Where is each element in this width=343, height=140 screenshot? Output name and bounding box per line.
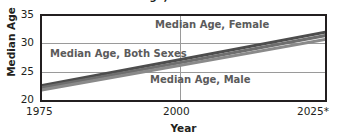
series-label-male: Median Age, Male xyxy=(150,74,251,85)
chart-figure: Median Age, 1975 to 2025 Median Age 35 3… xyxy=(0,0,343,140)
x-tick-label-1975: 1975 xyxy=(26,106,53,117)
y-tick-label-25: 25 xyxy=(0,66,34,76)
series-label-female: Median Age, Female xyxy=(155,19,269,30)
y-tick-label-35: 35 xyxy=(0,9,34,19)
x-tick-label-2000: 2000 xyxy=(163,106,190,117)
x-tick-label-2025: 2025* xyxy=(297,106,329,117)
series-label-both-sexes: Median Age, Both Sexes xyxy=(50,48,187,59)
y-tick-label-30: 30 xyxy=(0,37,34,47)
x-axis-title: Year xyxy=(40,122,327,134)
plot-area: Median Age, Female Median Age, Both Sexe… xyxy=(40,14,327,102)
y-tick-label-20: 20 xyxy=(0,94,34,104)
chart-title: Median Age, 1975 to 2025 xyxy=(0,0,343,2)
